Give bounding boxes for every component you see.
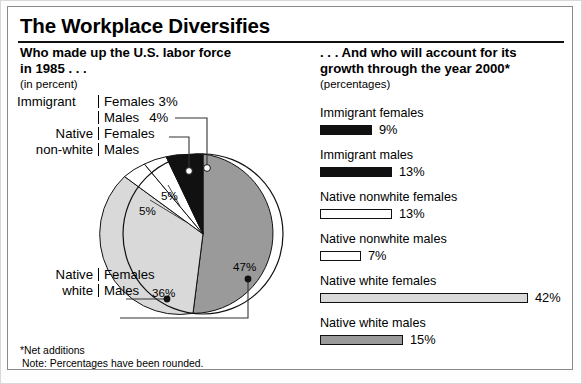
legend-immigrant-males-value: 4% xyxy=(149,110,168,125)
legend-divider-icon-4 xyxy=(98,143,99,156)
legend-divider-icon-2 xyxy=(98,111,99,124)
bar-label: Native nonwhite females xyxy=(320,190,457,204)
bar-rect xyxy=(320,167,392,177)
pie-label-native-white-females: 36% xyxy=(152,286,175,299)
legend-native-nonwhite: NativeFemales non-whiteMales xyxy=(17,126,155,157)
chart-figure: The Workplace Diversifies Who made up th… xyxy=(0,0,582,384)
left-panel-heading: Who made up the U.S. labor force in 1985… xyxy=(20,45,300,76)
bar-group-0: Immigrant females9% xyxy=(320,106,424,137)
bar-group-4: Native white females42% xyxy=(320,274,561,305)
right-heading-line2: growth through the year 2000* xyxy=(320,61,570,77)
legend-immigrant-females-value: 3% xyxy=(159,94,178,109)
bar-row: 42% xyxy=(320,290,561,305)
legend-native-white: NativeFemales whiteMales xyxy=(17,267,155,298)
bar-value: 7% xyxy=(368,248,387,263)
footnote-note: Note: Percentages have been rounded. xyxy=(22,358,203,371)
legend-immigrant-males-label: Males xyxy=(104,110,139,125)
pie-label-nonwhite-females: 5% xyxy=(161,189,178,202)
bar-value: 13% xyxy=(399,164,425,179)
legend-white-group-line1: Native xyxy=(17,267,93,283)
title-divider xyxy=(18,41,564,43)
bar-label: Immigrant males xyxy=(320,148,425,162)
pie-label-nonwhite-males: 5% xyxy=(139,204,156,217)
legend-divider-icon xyxy=(98,95,99,108)
right-panel-heading: . . . And who will account for its growt… xyxy=(320,45,570,76)
bar-rect xyxy=(320,125,372,135)
bar-group-2: Native nonwhite females13% xyxy=(320,190,457,221)
legend-divider-icon-6 xyxy=(98,284,99,297)
bar-row: 13% xyxy=(320,164,425,179)
left-heading-line2: in 1985 . . . xyxy=(20,61,300,77)
bar-rect xyxy=(320,251,361,261)
figure-title: The Workplace Diversifies xyxy=(20,14,270,38)
bar-rect xyxy=(320,209,392,219)
bar-row: 9% xyxy=(320,122,424,137)
legend-white-males-label: Males xyxy=(104,283,139,298)
bar-row: 15% xyxy=(320,332,436,347)
legend-immigrant: ImmigrantFemales3% Males4% xyxy=(17,94,178,125)
footnote-net-additions: *Net additions xyxy=(20,345,203,358)
legend-nonwhite-males-label: Males xyxy=(104,142,139,157)
bar-rect xyxy=(320,293,528,303)
bar-group-3: Native nonwhite males7% xyxy=(320,232,447,263)
legend-nonwhite-females-label: Females xyxy=(104,126,155,141)
right-heading-line1: . . . And who will account for its xyxy=(320,45,570,61)
bar-row: 7% xyxy=(320,248,447,263)
footnotes: *Net additions Note: Percentages have be… xyxy=(20,345,203,370)
legend-white-females-label: Females xyxy=(104,267,155,282)
bar-label: Native white females xyxy=(320,274,561,288)
bar-rect xyxy=(320,335,403,345)
bar-group-5: Native white males15% xyxy=(320,316,436,347)
legend-nonwhite-group-line2: non-white xyxy=(17,142,93,158)
bar-value: 13% xyxy=(399,206,425,221)
right-panel-subheading: (percentages) xyxy=(320,78,390,90)
legend-immigrant-females-label: Females xyxy=(104,94,155,109)
legend-divider-icon-3 xyxy=(98,127,99,140)
left-panel-subheading: (in percent) xyxy=(20,78,78,91)
bar-row: 13% xyxy=(320,206,457,221)
bar-label: Native white males xyxy=(320,316,436,330)
left-heading-line1: Who made up the U.S. labor force xyxy=(20,45,300,61)
bar-label: Native nonwhite males xyxy=(320,232,447,246)
legend-immigrant-group: Immigrant xyxy=(17,94,93,110)
bar-label: Immigrant females xyxy=(320,106,424,120)
legend-nonwhite-group-line1: Native xyxy=(17,126,93,142)
legend-immigrant-spacer xyxy=(17,110,93,126)
bar-value: 15% xyxy=(410,332,436,347)
bar-value: 9% xyxy=(379,122,398,137)
bar-value: 42% xyxy=(535,290,561,305)
bar-group-1: Immigrant males13% xyxy=(320,148,425,179)
pie-label-native-white-males: 47% xyxy=(233,260,256,273)
legend-divider-icon-5 xyxy=(98,268,99,281)
legend-white-group-line2: white xyxy=(17,283,93,299)
